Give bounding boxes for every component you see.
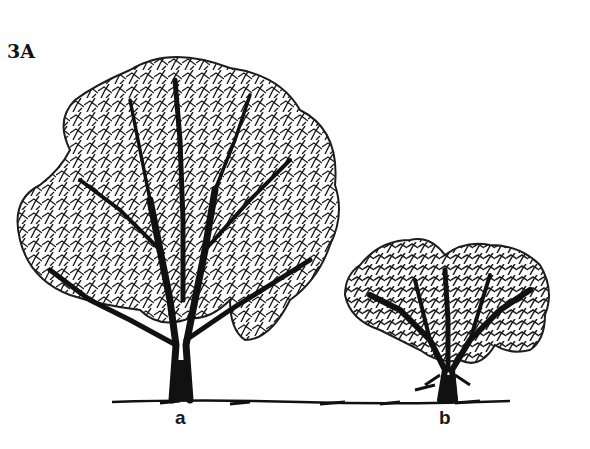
tree-b-label: b [439, 407, 451, 429]
tree-a-label: a [175, 407, 186, 429]
tree-illustration [0, 0, 590, 449]
figure-3a: 3A a b [0, 0, 590, 449]
figure-label: 3A [7, 40, 35, 62]
tree-b [345, 239, 549, 402]
tree-a [18, 57, 340, 400]
